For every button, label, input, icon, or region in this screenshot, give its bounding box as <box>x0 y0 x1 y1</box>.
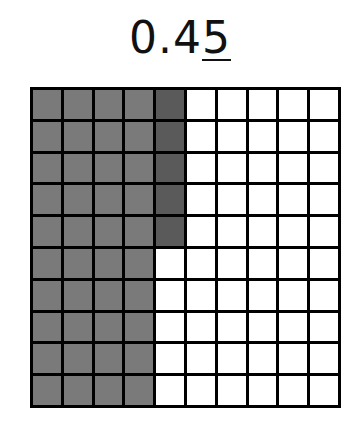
grid-cell <box>156 154 184 183</box>
grid-cell <box>187 154 215 183</box>
grid-cell <box>95 249 123 278</box>
grid-cell <box>187 344 215 373</box>
grid-cell <box>33 185 61 214</box>
grid-cell <box>218 185 246 214</box>
grid-cell <box>156 122 184 151</box>
grid-cell <box>33 344 61 373</box>
grid-cell <box>64 154 92 183</box>
grid-cell <box>218 122 246 151</box>
grid-cell <box>249 122 277 151</box>
grid-cell <box>249 185 277 214</box>
grid-cell <box>33 90 61 119</box>
grid-cell <box>310 344 338 373</box>
grid-cell <box>279 217 307 246</box>
grid-cell <box>218 154 246 183</box>
grid-cell <box>125 281 153 310</box>
grid-cell <box>95 344 123 373</box>
grid-cell <box>310 376 338 405</box>
grid-cell <box>279 313 307 342</box>
grid-cell <box>218 344 246 373</box>
decimal-hundredths-digit: 5 <box>202 12 231 63</box>
grid-cell <box>95 154 123 183</box>
grid-cell <box>33 154 61 183</box>
decimal-label: 0.45 <box>0 8 360 68</box>
grid-cell <box>95 313 123 342</box>
decimal-prefix: 0.4 <box>129 12 202 63</box>
grid-cell <box>64 217 92 246</box>
grid-cell <box>218 313 246 342</box>
grid-cell <box>310 313 338 342</box>
grid-cell <box>249 281 277 310</box>
grid-cell <box>187 217 215 246</box>
grid-cell <box>279 154 307 183</box>
grid-cell <box>64 122 92 151</box>
grid-cell <box>187 313 215 342</box>
grid-cell <box>33 313 61 342</box>
grid-cell <box>187 122 215 151</box>
grid-cell <box>279 376 307 405</box>
grid-cell <box>125 90 153 119</box>
grid-cell <box>156 344 184 373</box>
grid-cell <box>310 154 338 183</box>
grid-cell <box>187 376 215 405</box>
grid-cell <box>156 313 184 342</box>
grid-cell <box>156 281 184 310</box>
grid-cell <box>95 281 123 310</box>
grid-cell <box>156 90 184 119</box>
grid-cell <box>310 281 338 310</box>
grid-cell <box>218 217 246 246</box>
grid-cell <box>249 90 277 119</box>
grid-cell <box>125 376 153 405</box>
grid-cell <box>279 122 307 151</box>
grid-cell <box>64 344 92 373</box>
grid-cell <box>218 376 246 405</box>
grid-cell <box>310 122 338 151</box>
grid-cell <box>125 217 153 246</box>
grid-cell <box>33 249 61 278</box>
grid-cell <box>125 185 153 214</box>
grid-cell <box>125 249 153 278</box>
grid-cell <box>64 185 92 214</box>
grid-cell <box>95 217 123 246</box>
grid-cell <box>125 154 153 183</box>
grid-cell <box>156 249 184 278</box>
grid-cell <box>64 313 92 342</box>
hundred-grid <box>30 87 341 408</box>
grid-cell <box>64 249 92 278</box>
grid-cell <box>218 281 246 310</box>
grid-cell <box>33 217 61 246</box>
grid-cell <box>95 122 123 151</box>
grid-cell <box>95 90 123 119</box>
grid-cell <box>125 122 153 151</box>
grid-cell <box>249 249 277 278</box>
grid-cell <box>95 185 123 214</box>
grid-cell <box>279 185 307 214</box>
grid-cell <box>64 90 92 119</box>
grid-cell <box>249 344 277 373</box>
grid-cell <box>218 249 246 278</box>
grid-cell <box>33 281 61 310</box>
grid-cell <box>279 249 307 278</box>
grid-cell <box>279 281 307 310</box>
grid-cell <box>279 344 307 373</box>
grid-cell <box>310 90 338 119</box>
grid-cell <box>156 217 184 246</box>
grid-cell <box>125 344 153 373</box>
grid-cell <box>95 376 123 405</box>
grid-cell <box>187 281 215 310</box>
grid-cell <box>218 90 246 119</box>
grid-cell <box>156 185 184 214</box>
grid-cell <box>156 376 184 405</box>
grid-cell <box>64 376 92 405</box>
grid-cell <box>310 217 338 246</box>
grid-cell <box>249 313 277 342</box>
grid-cell <box>33 376 61 405</box>
grid-cell <box>249 154 277 183</box>
grid-cell <box>187 249 215 278</box>
grid-cell <box>64 281 92 310</box>
grid-cell <box>249 376 277 405</box>
grid-cell <box>187 185 215 214</box>
grid-cell <box>33 122 61 151</box>
grid-cell <box>187 90 215 119</box>
grid-cell <box>279 90 307 119</box>
